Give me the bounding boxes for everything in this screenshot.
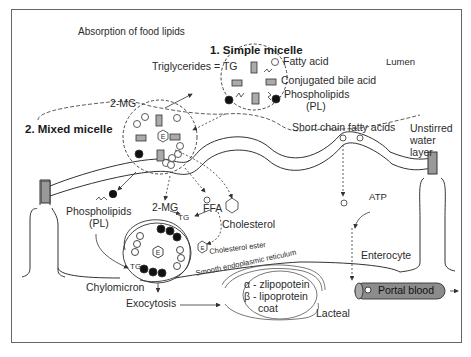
svg-text:E: E [200, 245, 204, 251]
ester-symbol-chylo: E [156, 249, 161, 256]
brush-border-membrane [50, 132, 432, 196]
cholesterol-label: Cholesterol [222, 219, 275, 230]
enterocyte-label: Enterocyte [361, 250, 411, 261]
two-mg-bottom-label: 2-MG [152, 202, 178, 213]
triglycerides-label: Triglycerides = TG [152, 61, 237, 72]
alpha-lipoprotein-label: α - zlipopotein [244, 279, 310, 290]
phospholipids-bottom-label: Phospholipids [66, 206, 131, 217]
exocytosis-label: Exocytosis [126, 298, 176, 309]
chylomicron-label: Chylomicron [86, 282, 144, 293]
short-chain-fatty-acids-label: Short chain fatty acids [292, 122, 395, 133]
cholesterol-hexagon [226, 198, 238, 213]
portal-blood-label: Portal blood [378, 285, 434, 296]
unstirred-label-3: layer [410, 147, 433, 158]
lacteal-label: Lacteal [316, 308, 350, 319]
conjugated-bile-acid-label: Conjugated bile acid [281, 75, 376, 86]
left-villus [22, 180, 65, 277]
beta-lipoprotein-label: β - lipoprotein [244, 291, 308, 302]
two-mg-top-label: 2-MG [110, 98, 136, 109]
phospholipid-dot [109, 190, 117, 198]
coat-label: coat [258, 303, 278, 314]
unstirred-label-2: water [410, 135, 436, 146]
mixed-micelle-heading: 2. Mixed micelle [25, 124, 113, 136]
pl-top-label: (PL) [306, 101, 326, 112]
pl-bottom-label: (PL) [89, 218, 109, 229]
tg-inner-label: TG [130, 263, 141, 271]
ffa-label: FFA [203, 203, 222, 214]
diagram-title: Absorption of food lipids [78, 27, 185, 37]
lumen-label: Lumen [386, 57, 415, 67]
tg-label: TG [178, 214, 189, 222]
phospholipids-top-label: Phospholipids [284, 89, 349, 100]
ester-symbol-mixed: E [161, 133, 166, 140]
atp-label: ATP [369, 192, 387, 202]
fatty-acid-label: Fatty acid [283, 56, 329, 67]
unstirred-label-1: Unstirred [410, 123, 453, 134]
